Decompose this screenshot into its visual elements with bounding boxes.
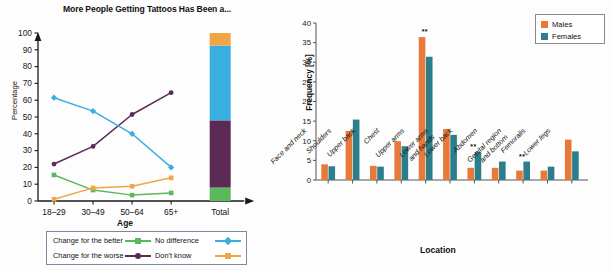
stacked-segment-1 — [210, 120, 231, 187]
y-tick-label: 30 — [302, 58, 311, 67]
y-tick-label: 40 — [302, 19, 311, 28]
bar-males — [516, 171, 523, 180]
series-line-2 — [54, 98, 171, 168]
y-tick-label: 50 — [23, 112, 33, 122]
y-tick-label: 60 — [23, 95, 33, 105]
left-chart-panel: More People Getting Tattoos Has Been a..… — [0, 0, 290, 270]
y-tick-label: 100 — [18, 28, 32, 38]
legend-label-worse: Change for the worse — [53, 249, 124, 263]
data-point — [51, 95, 57, 101]
data-point — [169, 90, 174, 95]
x-tick-label: 30–49 — [81, 207, 105, 217]
significance-marker: ** — [519, 153, 525, 160]
legend-marker-worse — [125, 249, 151, 263]
y-tick-label: 15 — [302, 117, 311, 126]
y-tick-label: 25 — [302, 78, 311, 87]
bar-females — [426, 57, 433, 180]
data-point — [169, 191, 174, 196]
legend-label-dontknow: Don't know — [155, 249, 191, 263]
data-point — [130, 112, 135, 117]
y-tick-label: 10 — [23, 179, 33, 189]
legend-row-2: Change for the worse Don't know — [47, 249, 246, 263]
stacked-segment-2 — [210, 46, 231, 121]
legend-marker-better — [125, 234, 151, 248]
data-point — [130, 193, 135, 198]
data-point — [52, 173, 57, 178]
y-tick-label: 80 — [23, 61, 33, 71]
series-line-0 — [54, 175, 171, 195]
males-swatch-icon — [541, 21, 548, 28]
data-point — [169, 176, 174, 181]
right-x-axis-label: Location — [420, 245, 456, 255]
left-x-axis-label: Age — [60, 218, 190, 228]
bar-males — [541, 171, 548, 180]
y-tick-label: 20 — [23, 162, 33, 172]
bar-males — [565, 140, 572, 180]
data-point — [52, 197, 57, 202]
left-chart-plot: 010203040506070809010018–2930–4950–6465+… — [0, 0, 290, 230]
y-tick-label: 40 — [23, 129, 33, 139]
y-tick-label: 90 — [23, 45, 33, 55]
y-tick-label: 0 — [27, 196, 32, 206]
significance-marker: ** — [422, 28, 428, 35]
data-point — [90, 108, 96, 114]
y-tick-label: 30 — [23, 145, 33, 155]
right-chart-panel: Frequency [%] 0510152025303540 Face and … — [290, 0, 613, 270]
x-tick-label: 65+ — [164, 207, 178, 217]
bar-females — [548, 167, 555, 180]
females-swatch-icon — [541, 33, 548, 40]
x-tick-label: 18–29 — [42, 207, 66, 217]
data-point — [91, 186, 96, 191]
bar-females — [572, 151, 579, 180]
x-axis-arrow-icon — [245, 198, 254, 205]
data-point — [91, 144, 96, 149]
right-chart-legend: Males Females — [535, 14, 605, 44]
y-tick-label: 35 — [302, 38, 311, 47]
legend-label-males: Males — [552, 20, 572, 29]
bar-females — [523, 162, 530, 180]
y-tick-label: 20 — [302, 97, 311, 106]
stacked-segment-0 — [210, 188, 231, 201]
significance-marker: ** — [470, 143, 476, 150]
legend-marker-dontknow — [215, 249, 241, 263]
data-point — [52, 162, 57, 167]
left-chart-legend: Change for the better No difference Chan… — [46, 231, 247, 265]
x-tick-label: 50–64 — [120, 207, 144, 217]
legend-label-nodiff: No difference — [155, 234, 199, 248]
stacked-segment-3 — [210, 33, 231, 46]
legend-marker-nodiff — [215, 234, 241, 248]
legend-entry-males: Males — [541, 18, 604, 30]
figure-container: More People Getting Tattoos Has Been a..… — [0, 0, 613, 270]
legend-label-females: Females — [552, 32, 581, 41]
legend-row-1: Change for the better No difference — [47, 234, 246, 248]
legend-entry-females: Females — [541, 30, 604, 42]
x-tick-label-total: Total — [211, 207, 229, 217]
y-tick-label: 70 — [23, 78, 33, 88]
data-point — [130, 184, 135, 189]
legend-label-better: Change for the better — [53, 234, 123, 248]
